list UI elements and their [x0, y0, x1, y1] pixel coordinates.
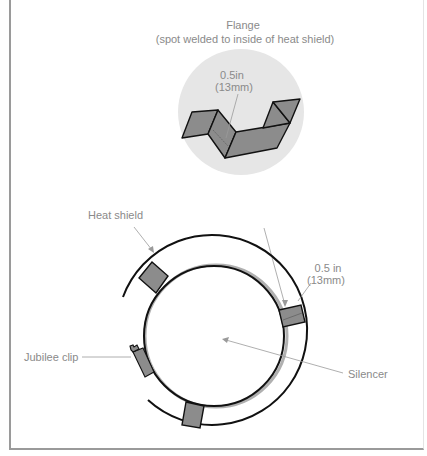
arrowhead-icon: [282, 300, 288, 307]
shield-dimension-mm: (13mm): [307, 274, 345, 286]
arrowhead-icon: [222, 337, 229, 343]
jubilee-clip-label: Jubilee clip: [24, 351, 78, 363]
flange-dimension-mm: (13mm): [215, 81, 253, 93]
exhaust-heat-shield-diagram: Flange (spot welded to inside of heat sh…: [0, 0, 427, 456]
arrowhead-icon: [148, 246, 154, 253]
heat-shield-leader: [134, 227, 152, 250]
flange-dimension-inch: 0.5in: [220, 69, 244, 81]
silencer-body: [144, 266, 284, 406]
flange-title: Flange: [226, 19, 260, 31]
flange-subtitle: (spot welded to inside of heat shield): [156, 33, 335, 45]
silencer-shadow: [145, 265, 287, 407]
heat-shield-label: Heat shield: [88, 209, 143, 221]
silencer-leader: [226, 340, 343, 373]
silencer-label: Silencer: [348, 368, 388, 380]
shield-dimension-inch: 0.5 in: [315, 262, 342, 274]
